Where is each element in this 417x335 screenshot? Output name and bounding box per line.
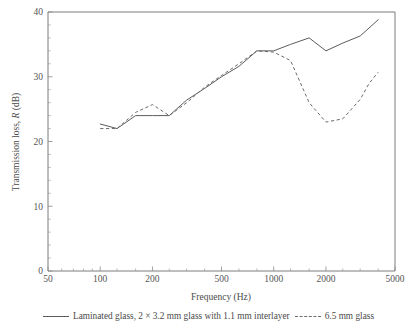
y-axis-ticks: [48, 12, 53, 271]
series-line-1: [100, 20, 378, 129]
x-tick-label: 50: [43, 274, 53, 284]
transmission-loss-chart: 010203040 50100200500100020005000 Freque…: [0, 0, 417, 335]
axes-frame: [48, 12, 395, 271]
y-tick-label: 20: [34, 137, 44, 147]
legend-entry-6-5-mm-glass: 6.5 mm glass: [295, 311, 374, 321]
x-tick-label: 5000: [386, 274, 405, 284]
legend-swatch-solid-line-icon: [43, 316, 69, 317]
legend-label-6-5-mm-glass: 6.5 mm glass: [325, 311, 374, 321]
y-axis-tick-labels: 010203040: [34, 7, 44, 276]
y-tick-label: 10: [34, 202, 44, 212]
x-axis-ticks: [48, 267, 395, 272]
x-axis-title: Frequency (Hz): [191, 292, 251, 303]
x-axis-tick-labels: 50100200500100020005000: [43, 274, 405, 284]
x-tick-label: 200: [145, 274, 160, 284]
y-axis-title: Transmission loss, R (dB): [11, 93, 22, 191]
legend-swatch-dashed-line-icon: [295, 316, 321, 317]
x-tick-label: 1000: [264, 274, 283, 284]
legend: Laminated glass, 2 × 3.2 mm glass with 1…: [0, 311, 417, 321]
x-tick-label: 100: [93, 274, 108, 284]
y-tick-label: 30: [34, 72, 44, 82]
x-tick-label: 2000: [316, 274, 335, 284]
x-tick-label: 500: [214, 274, 229, 284]
data-series-layer: [100, 20, 378, 129]
y-tick-label: 40: [34, 7, 44, 17]
legend-entry-laminated-glass: Laminated glass, 2 × 3.2 mm glass with 1…: [43, 311, 290, 321]
series-line-2: [100, 51, 378, 129]
legend-label-laminated-glass: Laminated glass, 2 × 3.2 mm glass with 1…: [73, 311, 290, 321]
